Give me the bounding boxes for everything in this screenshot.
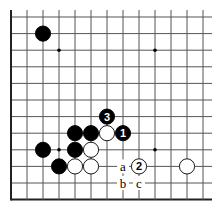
star-point bbox=[153, 48, 157, 52]
black-stone bbox=[67, 142, 82, 157]
white-stone bbox=[83, 159, 98, 174]
white-stone bbox=[99, 126, 114, 141]
point-label-c: c bbox=[136, 176, 142, 191]
white-stone bbox=[67, 159, 82, 174]
black-stone bbox=[67, 126, 82, 141]
star-point bbox=[57, 48, 61, 52]
black-stone bbox=[35, 142, 50, 157]
black-stone bbox=[35, 26, 50, 41]
move-number: 2 bbox=[136, 160, 142, 172]
white-stone bbox=[179, 159, 194, 174]
white-stone bbox=[83, 142, 98, 157]
black-stone-3: 3 bbox=[99, 109, 114, 124]
star-point bbox=[57, 148, 61, 152]
point-label-a: a bbox=[120, 159, 126, 174]
black-stone bbox=[51, 159, 66, 174]
white-stone-2: 2 bbox=[131, 159, 146, 174]
move-number: 1 bbox=[120, 127, 126, 139]
go-board: abc 312 bbox=[0, 0, 221, 210]
move-number: 3 bbox=[104, 111, 110, 123]
black-stone bbox=[83, 126, 98, 141]
black-stone-1: 1 bbox=[115, 126, 130, 141]
star-point bbox=[153, 148, 157, 152]
point-label-b: b bbox=[120, 176, 127, 191]
